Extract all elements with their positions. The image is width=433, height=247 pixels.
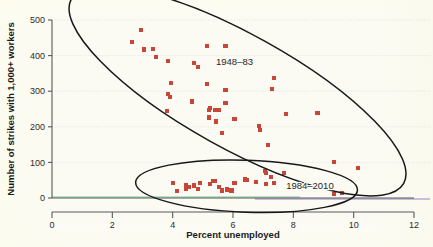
x-tick-label: 2 [110, 220, 115, 230]
data-point-marker [171, 181, 175, 185]
data-point-marker [169, 81, 173, 85]
data-point-marker [196, 65, 200, 69]
data-point-marker [192, 61, 196, 65]
data-point-marker [270, 87, 274, 91]
data-point-marker [142, 47, 146, 51]
y-tick-label: 400 [30, 51, 45, 61]
x-tick-label: 10 [349, 220, 359, 230]
data-point-marker [213, 179, 217, 183]
x-tick-label: 4 [170, 220, 175, 230]
data-point-marker [190, 99, 194, 103]
data-point-marker [213, 108, 217, 112]
data-point-marker [264, 171, 268, 175]
data-point-marker [272, 76, 276, 80]
data-point-marker [205, 44, 209, 48]
data-point-marker [232, 181, 236, 185]
data-point-marker [192, 183, 196, 187]
data-point-marker [272, 181, 276, 185]
chart-figure: 0100200300400500024681012 1948–831984–20… [0, 0, 433, 247]
x-tick-label: 0 [49, 220, 54, 230]
data-point-marker [217, 108, 221, 112]
data-point-marker [269, 175, 273, 179]
data-point-marker [356, 166, 360, 170]
data-point-marker [207, 115, 211, 119]
data-point-marker [232, 117, 236, 121]
scatter-plot: 0100200300400500024681012 1948–831984–20… [0, 0, 433, 247]
data-point-marker [258, 128, 262, 132]
data-point-marker [175, 189, 179, 193]
data-point-marker [184, 183, 188, 187]
data-point-marker [214, 119, 218, 123]
data-point-marker [207, 108, 211, 112]
y-tick-label: 0 [40, 193, 45, 203]
y-tick-label: 100 [30, 158, 45, 168]
y-axis-title: Number of strikes with 1,000+ workers [5, 22, 16, 195]
data-point-marker [266, 143, 270, 147]
data-point-marker [264, 182, 268, 186]
data-point-marker [223, 88, 227, 92]
data-point-marker [223, 44, 227, 48]
data-point-marker [130, 40, 134, 44]
data-point-marker [254, 180, 258, 184]
tick-marks [48, 20, 414, 218]
data-point-marker [220, 131, 224, 135]
data-point-marker [315, 111, 319, 115]
x-tick-label: 12 [409, 220, 419, 230]
data-point-marker [196, 187, 200, 191]
data-point-marker [332, 192, 336, 196]
data-point-marker [220, 188, 224, 192]
data-point-marker [198, 181, 202, 185]
data-point-marker [223, 101, 227, 105]
data-point-marker [154, 55, 158, 59]
data-point-marker [332, 160, 336, 164]
data-point-marker [245, 178, 249, 182]
grid-lines [52, 20, 430, 162]
y-tick-label: 200 [30, 122, 45, 132]
data-point-marker [257, 124, 261, 128]
y-tick-label: 500 [30, 15, 45, 25]
group-label-1948-83: 1948–83 [216, 56, 253, 67]
data-point-marker [225, 187, 229, 191]
data-point-marker [229, 188, 233, 192]
data-point-marker [168, 95, 172, 99]
y-tick-label: 300 [30, 86, 45, 96]
data-point-marker [282, 171, 286, 175]
data-point-marker [139, 28, 143, 32]
data-point-marker [165, 109, 169, 113]
data-point-marker [284, 112, 288, 116]
group-label-1984-2010: 1984–2010 [286, 180, 334, 191]
x-axis-title: Percent unemployed [186, 229, 280, 240]
x-tick-label: 8 [291, 220, 296, 230]
data-point-marker [205, 82, 209, 86]
data-point-marker [151, 47, 155, 51]
data-point-marker [166, 59, 170, 63]
